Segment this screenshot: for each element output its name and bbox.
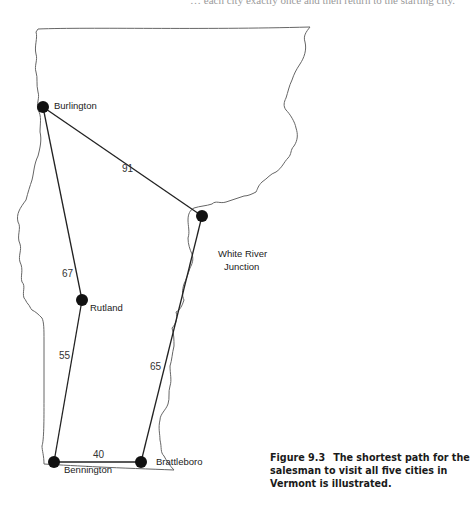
- edge-label-67: 67: [62, 268, 74, 279]
- edge-label-65: 65: [150, 361, 162, 372]
- city-node-brattleboro: [135, 456, 147, 468]
- city-node-bennington: [48, 456, 60, 468]
- city-label-bennington: Bennington: [64, 464, 112, 475]
- edge-white-river-brattleboro: [141, 216, 202, 462]
- city-node-white-river-junction: [196, 210, 208, 222]
- route-edges: [43, 107, 202, 462]
- city-label-brattleboro: Brattleboro: [156, 456, 202, 467]
- city-node-rutland: [76, 294, 88, 306]
- city-label-white-river-line1: White River: [218, 248, 267, 259]
- edge-label-55: 55: [59, 350, 71, 361]
- edge-bennington-rutland: [54, 300, 82, 462]
- figure-number: Figure 9.3: [270, 452, 325, 463]
- city-label-rutland: Rutland: [90, 302, 123, 313]
- edge-label-91: 91: [122, 163, 134, 174]
- edge-burlington-white-river: [43, 107, 202, 216]
- city-node-burlington: [37, 101, 49, 113]
- city-label-burlington: Burlington: [54, 100, 97, 111]
- city-label-white-river-line2: Junction: [224, 261, 259, 272]
- figure-caption: Figure 9.3The shortest path for the sale…: [270, 451, 470, 490]
- edge-label-40: 40: [93, 449, 105, 460]
